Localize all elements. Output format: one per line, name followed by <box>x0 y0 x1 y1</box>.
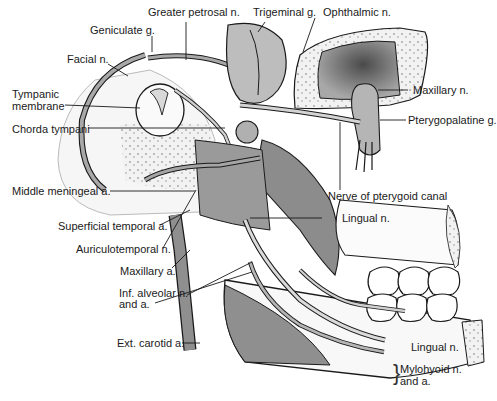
label-mylohyoid-line2: and a. <box>400 375 431 387</box>
label-nerve-of-pterygoid-canal: Nerve of pterygoid canal <box>328 190 447 202</box>
trigeminal-ganglion-shape <box>227 23 287 103</box>
label-ophthalmic-nerve: Ophthalmic n. <box>323 6 391 18</box>
label-auriculotemporal-nerve: Auriculotemporal n. <box>76 243 171 255</box>
label-lingual-nerve-lower: Lingual n. <box>411 341 459 353</box>
pterygopalatine-ganglion-shape <box>352 84 380 172</box>
label-maxillary-nerve: Maxillary n. <box>413 84 469 96</box>
label-maxillary-artery: Maxillary a. <box>120 265 176 277</box>
label-geniculate-ganglion: Geniculate g. <box>90 24 155 36</box>
label-facial-nerve: Facial n. <box>67 53 109 65</box>
label-inferior-alveolar-line2: and a. <box>119 298 150 310</box>
label-chorda-tympani: Chorda tympani <box>12 123 90 135</box>
pterygoid-muscles <box>195 140 339 275</box>
label-external-carotid-artery: Ext. carotid a. <box>117 337 184 349</box>
label-middle-meningeal-artery: Middle meningeal a. <box>12 185 110 197</box>
palate <box>336 200 459 265</box>
label-mylohyoid-line1: Mylohyoid n. <box>400 363 462 375</box>
label-superficial-temporal-artery: Superficial temporal a. <box>58 220 167 232</box>
mylohyoid-bracket: } <box>393 361 400 385</box>
label-lingual-nerve-upper: Lingual n. <box>342 212 390 224</box>
label-tympanic-membrane-line1: Tympanic <box>12 88 59 100</box>
label-trigeminal-ganglion: Trigeminal g. <box>253 6 316 18</box>
label-pterygopalatine-ganglion: Pterygopalatine g. <box>408 114 497 126</box>
otic-ganglion-shape <box>236 121 258 143</box>
label-greater-petrosal-nerve: Greater petrosal n. <box>148 6 240 18</box>
teeth <box>367 267 460 322</box>
label-tympanic-membrane-line2: membrane <box>12 100 65 112</box>
